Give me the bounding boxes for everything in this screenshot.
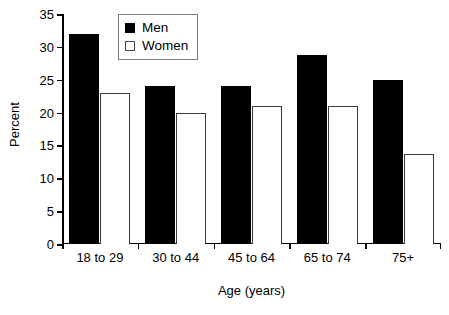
legend-label: Men — [142, 21, 168, 35]
y-tick-label: 15 — [40, 139, 54, 152]
y-tick-label: 30 — [40, 40, 54, 53]
bar-men-75 — [373, 80, 403, 244]
x-tick-label: 30 to 44 — [152, 250, 199, 265]
legend-item-men: Men — [125, 19, 188, 37]
legend-swatch-women-icon — [125, 41, 135, 51]
y-tick-label: 20 — [40, 106, 54, 119]
x-tick-mark — [214, 244, 216, 249]
legend: MenWomen — [118, 14, 198, 60]
x-tick-label: 75+ — [392, 250, 414, 265]
y-tick-label: 5 — [47, 205, 54, 218]
x-tick-mark — [440, 244, 442, 249]
y-axis-title-text: Percent — [7, 102, 22, 147]
bar-women-18-to-29 — [100, 93, 130, 244]
x-tick-label: 65 to 74 — [304, 250, 351, 265]
bar-men-30-to-44 — [145, 86, 175, 244]
x-axis-tick-labels: 18 to 2930 to 4445 to 6465 to 7475+ — [62, 250, 441, 270]
x-tick-mark — [289, 244, 291, 249]
bar-men-18-to-29 — [69, 34, 99, 244]
bar-women-30-to-44 — [176, 113, 206, 244]
legend-label: Women — [142, 39, 188, 53]
bar-women-75 — [404, 154, 434, 244]
x-tick-mark — [365, 244, 367, 249]
legend-swatch-men-icon — [125, 23, 135, 33]
y-tick-label: 10 — [40, 172, 54, 185]
y-tick-label: 25 — [40, 73, 54, 86]
x-tick-mark — [62, 244, 64, 249]
bar-men-45-to-64 — [221, 86, 251, 244]
x-tick-label: 45 to 64 — [228, 250, 275, 265]
bar-women-65-to-74 — [328, 106, 358, 244]
x-axis-title: Age (years) — [62, 283, 441, 298]
y-tick-label: 35 — [40, 8, 54, 21]
y-axis-title: Percent — [0, 0, 28, 248]
bar-chart: Percent 05101520253035 MenWomen 18 to 29… — [0, 0, 449, 315]
x-tick-mark — [138, 244, 140, 249]
bar-men-65-to-74 — [297, 55, 327, 244]
legend-item-women: Women — [125, 37, 188, 55]
y-axis-tick-labels: 05101520253035 — [26, 8, 54, 244]
bar-women-45-to-64 — [252, 106, 282, 244]
x-tick-label: 18 to 29 — [76, 250, 123, 265]
y-tick-label: 0 — [47, 238, 54, 251]
